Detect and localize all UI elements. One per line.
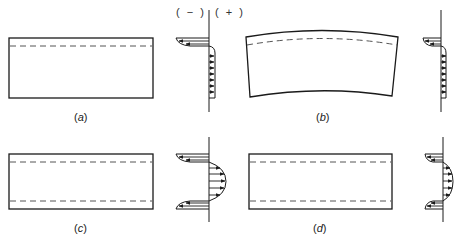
compressive-skin-a (176, 38, 209, 46)
plate-b (246, 31, 398, 98)
tension-profile-b (441, 46, 446, 98)
tension-profile-a (209, 46, 215, 98)
panel-label-b: (b) (316, 111, 329, 123)
dashed-line-b-top (247, 39, 397, 46)
panel-label-d: (d) (313, 222, 326, 234)
panel-label-c: (c) (74, 222, 87, 234)
positive-sign-label: ( + ) (215, 6, 245, 18)
panel-c (9, 137, 226, 222)
panel-b (246, 10, 446, 112)
tension-arrows-a (209, 56, 214, 92)
stress-diagram-figure (0, 0, 456, 239)
panel-label-a: (a) (74, 111, 87, 123)
panel-d (249, 137, 453, 222)
plate-a (9, 38, 153, 98)
tension-arrows-c (209, 168, 225, 195)
panel-a (9, 10, 215, 112)
compressive-skin-b (423, 38, 441, 46)
tension-arrows-d (443, 168, 452, 195)
tension-arrows-b (441, 56, 446, 92)
negative-sign-label: ( − ) (176, 6, 206, 18)
